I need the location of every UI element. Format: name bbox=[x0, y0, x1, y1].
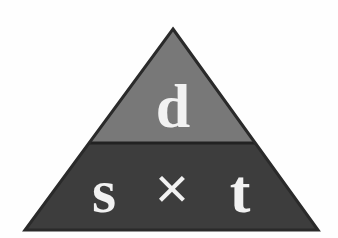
distance-label: d bbox=[156, 72, 190, 140]
formula-triangle-figure: d s × t bbox=[0, 0, 338, 238]
triangle-diagram: d s × t bbox=[0, 0, 338, 238]
multiply-icon: × bbox=[155, 155, 189, 220]
speed-label: s bbox=[92, 157, 116, 225]
time-label: t bbox=[230, 157, 251, 225]
